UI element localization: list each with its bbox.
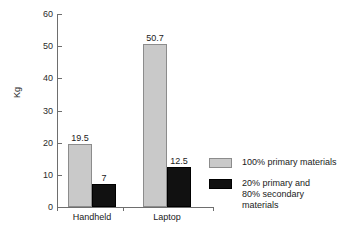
x-axis-category-handheld: Handheld [73, 212, 112, 222]
y-axis-tick-10: 10 [58, 175, 62, 176]
x-axis-line [57, 207, 214, 208]
y-axis-tick-40: 40 [58, 78, 62, 79]
legend: 100% primary materials 20% primary and 8… [209, 157, 361, 221]
bar-laptop-primary[interactable]: 50.7 [143, 44, 167, 207]
secondary-swatch-icon [209, 179, 232, 189]
bar-value-handheld-primary: 19.5 [71, 133, 89, 143]
y-axis-tick-label-40: 40 [43, 74, 53, 83]
y-axis-title: Kg [13, 87, 22, 98]
primary-swatch-icon [209, 158, 232, 168]
y-axis-tick-60: 60 [58, 14, 62, 15]
legend-label-secondary: 20% primary and 80% secondary materials [242, 178, 310, 211]
x-axis-tick-start [57, 207, 58, 211]
y-axis-tick-label-60: 60 [43, 10, 53, 19]
y-axis-tick-20: 20 [58, 143, 62, 144]
bar-value-handheld-secondary: 7 [101, 173, 106, 183]
y-axis-tick-50: 50 [58, 46, 62, 47]
y-axis-tick-0: 0 [58, 207, 62, 208]
bar-value-laptop-primary: 50.7 [146, 33, 164, 43]
y-axis-tick-label-50: 50 [43, 42, 53, 51]
y-axis-tick-label-20: 20 [43, 139, 53, 148]
legend-item-secondary[interactable]: 20% primary and 80% secondary materials [209, 178, 361, 211]
bar-laptop-secondary[interactable]: 12.5 [167, 167, 191, 207]
legend-item-primary[interactable]: 100% primary materials [209, 157, 361, 168]
bar-chart: Kg 60 50 40 30 20 10 0 19.5 [0, 0, 364, 237]
plot-area: 60 50 40 30 20 10 0 19.5 7 [57, 14, 214, 207]
x-axis-category-laptop: Laptop [153, 212, 181, 222]
y-axis-tick-label-10: 10 [43, 171, 53, 180]
y-axis-tick-label-30: 30 [43, 107, 53, 116]
bar-handheld-secondary[interactable]: 7 [92, 184, 116, 207]
bar-handheld-primary[interactable]: 19.5 [68, 144, 92, 207]
bar-value-laptop-secondary: 12.5 [170, 156, 188, 166]
x-axis-tick-mid [123, 207, 124, 211]
y-axis-tick-label-0: 0 [48, 203, 53, 212]
legend-label-primary: 100% primary materials [242, 157, 337, 168]
y-axis-tick-30: 30 [58, 111, 62, 112]
